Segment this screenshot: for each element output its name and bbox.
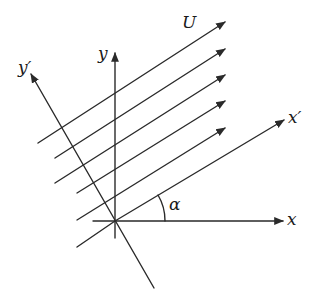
streamline-2	[55, 49, 225, 158]
angle-arc	[158, 195, 165, 221]
y-prime-axis-label: y′	[18, 59, 31, 76]
x-axis-label: x	[287, 211, 297, 228]
streamline-1	[38, 22, 225, 143]
streamline-6	[77, 221, 115, 247]
y-axis-label: y	[98, 45, 108, 62]
streamline-5	[77, 128, 225, 220]
flow-label-U: U	[182, 14, 196, 31]
angle-label-alpha: α	[169, 196, 180, 213]
uniform-flow-diagram	[0, 0, 316, 308]
x-prime-axis	[115, 120, 284, 221]
streamline-4	[77, 101, 225, 193]
x-prime-axis-label: x′	[288, 109, 301, 126]
streamline-3	[55, 75, 225, 183]
